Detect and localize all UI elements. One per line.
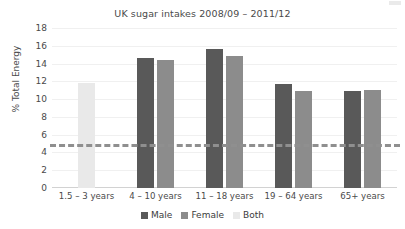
bar-group [259,28,328,188]
x-axis-category-label: 65+ years [328,191,397,201]
reference-line-5-percent [50,144,400,147]
plot-area: 181614121086420 [52,28,397,188]
legend-item-both[interactable]: Both [233,210,264,220]
legend-label: Both [243,210,264,220]
bar-group [328,28,397,188]
y-axis-title: % Total Energy [11,39,21,119]
x-axis-category-label: 4 – 10 years [121,191,190,201]
bar-male [137,58,154,188]
page-scan-artifact [389,1,401,5]
legend-label: Female [191,210,224,220]
bar-both [78,83,95,188]
bar-group [190,28,259,188]
y-axis-tick-label: 18 [36,23,47,33]
y-axis-tick-label: 8 [41,112,47,122]
bar-female [295,91,312,188]
sugar-intake-bar-chart: UK sugar intakes 2008/09 – 2011/12 % Tot… [0,0,405,229]
y-axis-tick-label: 2 [41,165,47,175]
bar-female [226,56,243,188]
y-axis-tick-label: 10 [36,94,47,104]
x-axis-category-label: 11 – 18 years [190,191,259,201]
legend-swatch-icon [181,212,188,219]
bar-groups [52,28,397,188]
chart-legend: MaleFemaleBoth [0,210,405,220]
legend-swatch-icon [233,212,240,219]
legend-swatch-icon [141,212,148,219]
bar-male [275,84,292,188]
legend-item-female[interactable]: Female [181,210,224,220]
x-axis-category-labels: 1.5 – 3 years4 – 10 years11 – 18 years19… [52,191,397,201]
x-axis-category-label: 19 – 64 years [259,191,328,201]
bar-male [206,49,223,188]
y-axis-tick-label: 14 [36,59,47,69]
bar-male [344,91,361,188]
bar-group [52,28,121,188]
x-axis-category-label: 1.5 – 3 years [52,191,121,201]
y-axis-tick-label: 6 [41,130,47,140]
chart-title: UK sugar intakes 2008/09 – 2011/12 [0,8,405,19]
bar-group [121,28,190,188]
legend-item-male[interactable]: Male [141,210,172,220]
y-axis-tick-label: 12 [36,76,47,86]
bar-female [157,60,174,188]
y-axis-tick-label: 4 [41,147,47,157]
legend-label: Male [151,210,172,220]
y-axis-tick-label: 0 [41,183,47,193]
y-axis-tick-label: 16 [36,41,47,51]
bar-female [364,90,381,188]
